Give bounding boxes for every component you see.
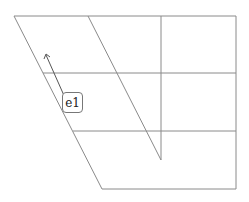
skewed-grid-diagram — [0, 0, 249, 202]
left-slanted-edge — [14, 16, 102, 189]
vector-label-e1: e1 — [62, 92, 83, 113]
inner-slanted-line — [88, 16, 161, 160]
